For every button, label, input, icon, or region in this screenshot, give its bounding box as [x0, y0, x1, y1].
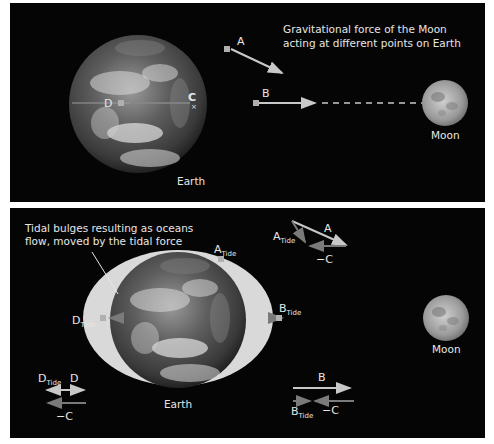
- point-b-marker: [253, 100, 259, 106]
- svg-text:A: A: [324, 222, 332, 235]
- moon-label: Moon: [432, 343, 461, 355]
- gravitational-force-diagram: × A B C D Gravitational force of the Moo…: [10, 3, 485, 202]
- moon-label: Moon: [431, 129, 460, 141]
- svg-text:−C: −C: [322, 404, 339, 417]
- svg-text:−C: −C: [56, 410, 73, 423]
- vector-diagram-a: A ATide −C: [273, 221, 346, 266]
- moon: [422, 80, 468, 126]
- moon: [423, 295, 469, 341]
- caption-line-1: Gravitational force of the Moon: [283, 23, 447, 35]
- caption-line-2: acting at different points on Earth: [283, 37, 461, 49]
- force-arrow-a: [231, 49, 282, 73]
- svg-text:D: D: [70, 372, 78, 385]
- earth-label: Earth: [177, 175, 205, 187]
- point-a-marker: [224, 46, 230, 52]
- earth: [110, 252, 246, 388]
- svg-text:ATide: ATide: [273, 230, 295, 245]
- gravitational-force-panel: × A B C D Gravitational force of the Moo…: [10, 3, 485, 202]
- point-d-tide-marker: [100, 315, 106, 321]
- point-c-x: ×: [191, 103, 197, 111]
- caption-line-2: flow, moved by the tidal force: [25, 235, 182, 247]
- point-b-tide-marker: [276, 315, 282, 321]
- earth-label: Earth: [164, 398, 192, 410]
- svg-text:BTide: BTide: [291, 405, 313, 420]
- earth: [69, 35, 207, 173]
- label-a-tide: ATide: [214, 243, 236, 258]
- svg-text:−C: −C: [316, 253, 333, 266]
- svg-text:B: B: [318, 371, 326, 384]
- label-d: D: [104, 97, 112, 110]
- vector-diagram-d: DTide D −C: [38, 372, 86, 423]
- label-b-tide: BTide: [279, 302, 301, 317]
- label-a: A: [237, 35, 245, 48]
- tidal-bulge-diagram: ATide BTide DTide Tidal bulges resulting…: [10, 208, 485, 438]
- label-c: C: [188, 91, 196, 104]
- vector-diagram-b: B BTide −C: [291, 371, 354, 420]
- tidal-bulge-panel: ATide BTide DTide Tidal bulges resulting…: [10, 208, 485, 438]
- svg-text:DTide: DTide: [38, 372, 61, 387]
- point-d-marker: [118, 100, 124, 106]
- label-b: B: [262, 87, 270, 100]
- caption-line-1: Tidal bulges resulting as oceans: [24, 222, 193, 234]
